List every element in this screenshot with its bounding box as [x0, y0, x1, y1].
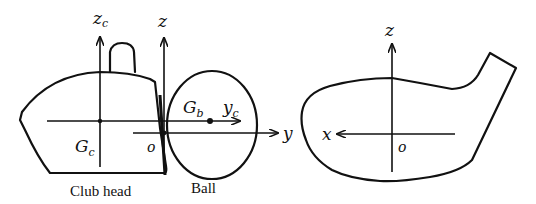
- right-panel: z x o: [302, 20, 517, 181]
- y-label: y: [282, 123, 293, 143]
- gc-point: [98, 119, 102, 123]
- left-panel: zc z Gc Gb yc o y Club head Ball: [20, 8, 293, 199]
- gc-label: Gc: [75, 136, 95, 159]
- front-z-label: z: [384, 20, 395, 40]
- ball-caption: Ball: [191, 180, 216, 196]
- club-head-caption: Club head: [70, 183, 132, 199]
- golf-impact-diagram: zc z Gc Gb yc o y Club head Ball z x o: [0, 0, 536, 204]
- yc-label: yc: [222, 97, 239, 120]
- zc-label: zc: [92, 8, 108, 30]
- front-x-label: x: [322, 124, 332, 144]
- origin-label: o: [147, 139, 155, 155]
- ball-outline: [167, 71, 257, 179]
- z-label: z: [157, 11, 168, 31]
- gb-label: Gb: [183, 97, 204, 120]
- front-origin-label: o: [398, 139, 406, 155]
- origin-point: [162, 131, 167, 136]
- gb-point: [207, 118, 213, 124]
- club-hosel: [110, 43, 135, 72]
- club-head-front-outline: [302, 53, 517, 181]
